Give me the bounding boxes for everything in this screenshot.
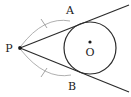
external-point-dot [18, 46, 22, 50]
center-point-dot [88, 40, 91, 43]
geometry-canvas: P A B O [0, 0, 131, 97]
geometry-figure: P A B O [0, 0, 131, 97]
label-center-o: O [85, 46, 94, 59]
label-point-p: P [5, 42, 13, 55]
label-point-b: B [68, 80, 76, 93]
label-point-a: A [65, 4, 75, 17]
